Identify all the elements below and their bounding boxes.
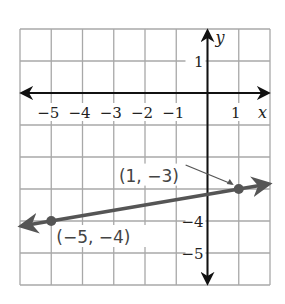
y-axis-label: y <box>215 28 226 47</box>
coordinate-plane: −5−4−3−2−111−4−5yx (−5, −4)(1, −3) <box>0 0 285 304</box>
x-tick-label: −3 <box>100 104 122 122</box>
x-tick-label: −4 <box>68 104 90 122</box>
point-label: (1, −3) <box>119 166 179 186</box>
y-tick-label: −4 <box>181 213 203 231</box>
x-axis-label: x <box>258 103 267 122</box>
x-tick-label: −1 <box>162 104 184 122</box>
x-tick-label: −2 <box>131 104 153 122</box>
data-point <box>234 184 244 194</box>
y-tick-label: 1 <box>194 53 204 71</box>
y-tick-label: −5 <box>181 245 203 263</box>
x-tick-label: 1 <box>231 104 241 122</box>
data-point <box>46 216 56 226</box>
x-tick-label: −5 <box>37 104 59 122</box>
point-label: (−5, −4) <box>56 227 130 247</box>
data-series: (−5, −4)(1, −3) <box>22 164 269 247</box>
